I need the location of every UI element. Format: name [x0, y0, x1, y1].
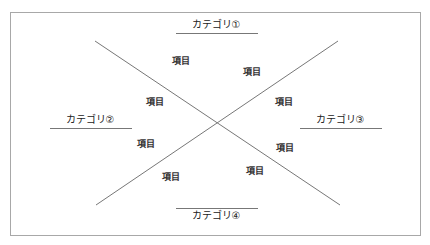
category-underline-3	[300, 128, 382, 129]
item-label: 項目	[246, 164, 264, 177]
item-label: 項目	[276, 141, 294, 154]
item-label: 項目	[162, 170, 180, 183]
item-label: 項目	[172, 54, 190, 67]
category-label-2: カテゴリ②	[50, 114, 130, 126]
category-underline-2	[50, 128, 132, 129]
category-label-1: カテゴリ①	[176, 19, 256, 31]
item-label: 項目	[137, 137, 155, 150]
category-underline-4	[176, 208, 258, 209]
category-underline-1	[176, 33, 258, 34]
category-label-4: カテゴリ④	[176, 210, 256, 222]
item-label: 項目	[243, 65, 261, 78]
category-label-3: カテゴリ③	[300, 114, 380, 126]
item-label: 項目	[146, 95, 164, 108]
item-label: 項目	[275, 95, 293, 108]
